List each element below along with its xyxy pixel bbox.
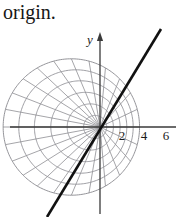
grid-spoke-11 — [12, 93, 100, 127]
x-tick-label-6: 6 — [163, 128, 170, 143]
y-axis-label: y — [85, 32, 93, 47]
grid-spoke-6 — [89, 61, 100, 127]
x-tick-label-2: 2 — [119, 128, 126, 143]
polar-limacon-grid-figure: 246 y — [0, 0, 193, 217]
y-axis-arrow-icon — [97, 32, 103, 41]
y-axis-label-text: y — [85, 32, 93, 47]
bold-line-through-origin — [47, 29, 161, 217]
bold-line — [47, 29, 161, 217]
grid-spoke-15 — [12, 127, 100, 161]
x-tick-label-4: 4 — [141, 128, 148, 143]
